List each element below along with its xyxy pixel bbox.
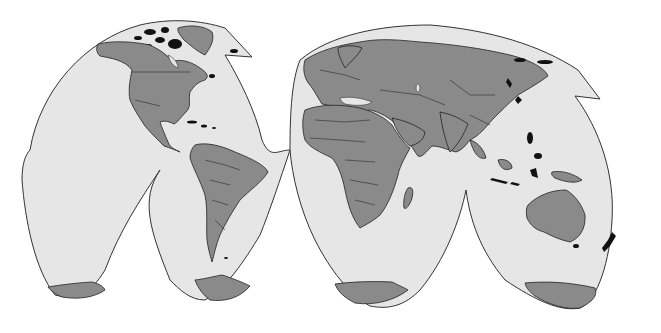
caspian-sea: [416, 84, 420, 92]
newfoundland: [209, 74, 215, 78]
world-map: [0, 0, 661, 333]
tasmania: [573, 244, 579, 248]
falkland-islands: [224, 257, 228, 259]
antarctica-east-2: [525, 282, 596, 308]
map-canvas: [0, 0, 661, 333]
